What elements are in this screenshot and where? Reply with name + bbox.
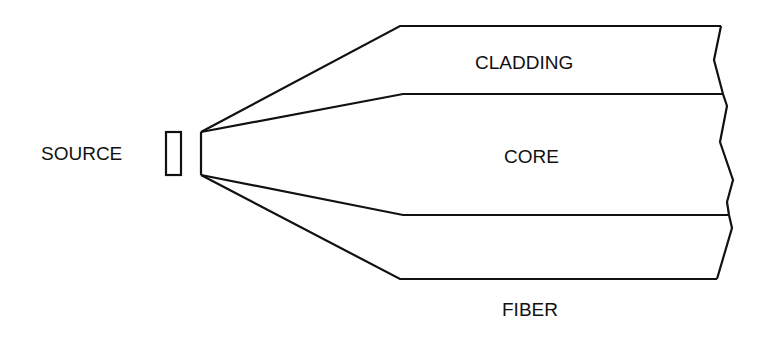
fiber-break-edge bbox=[714, 26, 733, 279]
fiber-label: FIBER bbox=[502, 300, 558, 319]
source-label: SOURCE bbox=[41, 144, 122, 163]
source-rectangle bbox=[166, 132, 181, 175]
fiber-diagram bbox=[0, 0, 768, 337]
outer-ray-top bbox=[201, 26, 721, 132]
core-boundary-bottom bbox=[201, 175, 729, 215]
core-label: CORE bbox=[504, 147, 559, 166]
cladding-label: CLADDING bbox=[475, 53, 573, 72]
core-boundary-top bbox=[201, 94, 723, 132]
